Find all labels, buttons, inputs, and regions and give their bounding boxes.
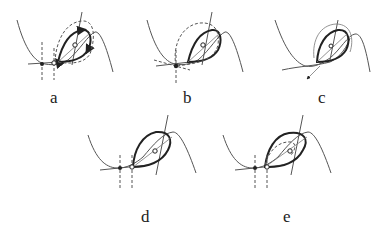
panel-label-c: c [318, 88, 326, 108]
saddle-point [40, 62, 44, 66]
focus-point [153, 149, 157, 153]
saddle-node-point [174, 64, 178, 68]
long-trajectory [282, 38, 350, 70]
cubic-curve [147, 20, 243, 72]
panel-e-diagram [223, 115, 331, 190]
limit-cycle [133, 132, 170, 167]
figure-canvas [0, 0, 388, 238]
node-point [130, 165, 134, 169]
panel-label-d: d [141, 207, 150, 227]
panel-a-diagram [17, 12, 113, 80]
focus-point [288, 149, 292, 153]
saddle-point [253, 166, 257, 170]
escape-trajectory [308, 66, 320, 78]
focus-point [329, 44, 333, 48]
focus-point [73, 43, 77, 47]
node-point [265, 165, 269, 169]
panel-label-e: e [283, 207, 291, 227]
diagonal-line [265, 137, 307, 167]
panel-c-diagram [275, 20, 370, 78]
focus-point [201, 43, 205, 47]
cubic-curve [275, 20, 370, 72]
panel-b-diagram [147, 12, 243, 85]
panel-d-diagram [88, 115, 196, 190]
dashed-orbit [55, 21, 93, 63]
node-point [52, 61, 56, 65]
panel-label-b: b [183, 88, 192, 108]
vertical-line [291, 115, 303, 175]
saddle-point [118, 166, 122, 170]
panel-label-a: a [50, 88, 58, 108]
